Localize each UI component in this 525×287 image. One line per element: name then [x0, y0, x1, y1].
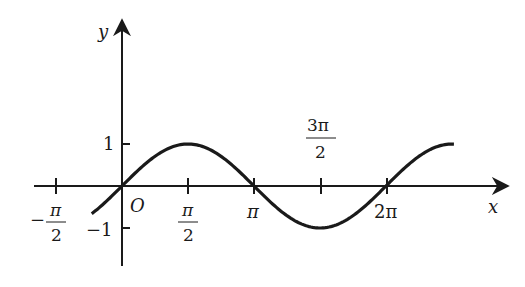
tick-label-2pi: 2π — [374, 201, 397, 222]
origin-label: O — [130, 195, 145, 216]
svg-text:2: 2 — [315, 142, 326, 162]
tick-label-pi: π — [246, 201, 260, 222]
tick-label-pi-over-2: π 2 — [178, 200, 198, 245]
svg-text:π: π — [181, 200, 194, 220]
tick-label-3pi-over-2: 3π 2 — [306, 115, 336, 162]
svg-text:2: 2 — [183, 225, 194, 245]
tick-label-y-1: 1 — [103, 133, 114, 154]
svg-text:2: 2 — [51, 225, 62, 245]
svg-text:π: π — [49, 200, 62, 220]
tick-label-y-neg1: −1 — [86, 219, 113, 240]
svg-text:3π: 3π — [307, 115, 329, 135]
svg-text:−: − — [30, 209, 45, 230]
tick-label-neg-pi-over-2: − π 2 — [30, 200, 66, 245]
y-axis-label: y — [97, 21, 109, 42]
x-axis-label: x — [488, 196, 498, 217]
sine-chart: x y O − π 2 π 2 π 3π 2 2π 1 −1 — [0, 0, 525, 287]
